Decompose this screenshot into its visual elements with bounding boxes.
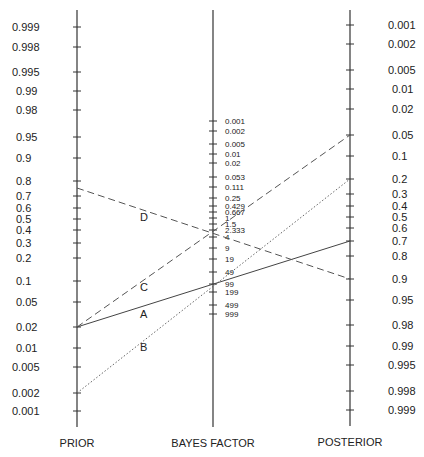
posterior-tick-label: 0.1 xyxy=(392,150,407,162)
bayes-factor-tick-label: 9 xyxy=(225,244,230,253)
posterior-tick-label: 0.7 xyxy=(392,235,407,247)
prior-tick-label: 0.02 xyxy=(16,321,37,333)
posterior-tick-label: 0.02 xyxy=(392,103,413,115)
bayes-factor-tick-label: 999 xyxy=(225,310,239,319)
posterior-tick-label: 0.001 xyxy=(388,19,416,31)
posterior-tick-label: 0.05 xyxy=(392,129,413,141)
posterior-tick-label: 0.98 xyxy=(392,319,413,331)
bayes-factor-tick-label: 0.001 xyxy=(225,117,246,126)
prior-tick-label: 0.05 xyxy=(16,296,37,308)
prior-tick-label: 0.999 xyxy=(12,21,40,33)
line-labels: D C A B xyxy=(140,211,148,353)
prior-tick-label: 0.9 xyxy=(16,152,31,164)
bayes-factor-tick-label: 499 xyxy=(225,301,239,310)
bayes-factor-tick-label: 0.002 xyxy=(225,127,246,136)
axis-title-posterior: POSTERIOR xyxy=(318,436,383,448)
posterior-tick-label: 0.999 xyxy=(388,404,416,416)
axis-title-bayes-factor: BAYES FACTOR xyxy=(171,437,254,449)
posterior-tick-label: 0.998 xyxy=(388,385,416,397)
posterior-tick-label: 0.005 xyxy=(388,64,416,76)
bayes-factor-tick-label: 0.053 xyxy=(225,173,246,182)
prior-tick-label: 0.7 xyxy=(16,190,31,202)
axis-title-prior: PRIOR xyxy=(60,437,95,449)
posterior-tick-label: 0.002 xyxy=(388,38,416,50)
bayes-factor-tick-label: 19 xyxy=(225,255,234,264)
posterior-tick-label: 0.3 xyxy=(392,188,407,200)
line-label-a: A xyxy=(140,308,148,320)
posterior-tick-label: 0.9 xyxy=(392,273,407,285)
line-label-d: D xyxy=(140,211,148,223)
prior-tick-label: 0.95 xyxy=(16,131,37,143)
prior-tick-label: 0.01 xyxy=(16,342,37,354)
posterior-tick-label: 0.6 xyxy=(392,222,407,234)
posterior-tick-label: 0.01 xyxy=(392,83,413,95)
bayes-factor-tick-label: 0.005 xyxy=(225,140,246,149)
bayes-factor-tick-label: 0.01 xyxy=(225,150,241,159)
prior-tick-label: 0.001 xyxy=(12,405,40,417)
posterior-tick-label: 0.99 xyxy=(392,340,413,352)
prior-tick-label: 0.995 xyxy=(12,66,40,78)
prior-tick-label: 0.98 xyxy=(16,104,37,116)
axes: 0.9990.9980.9950.990.980.950.90.80.70.60… xyxy=(12,10,416,427)
prior-tick-label: 0.005 xyxy=(12,361,40,373)
prior-tick-label: 0.998 xyxy=(12,41,40,53)
prior-tick-label: 0.99 xyxy=(16,85,37,97)
prior-tick-label: 0.1 xyxy=(16,275,31,287)
posterior-tick-label: 0.8 xyxy=(392,250,407,262)
prior-tick-label: 0.8 xyxy=(16,175,31,187)
posterior-tick-label: 0.95 xyxy=(392,294,413,306)
line-label-c: C xyxy=(140,281,148,293)
line-label-b: B xyxy=(140,341,147,353)
prior-tick-label: 0.3 xyxy=(16,237,31,249)
bayes-factor-tick-label: 199 xyxy=(225,288,239,297)
axis-titles: PRIOR BAYES FACTOR POSTERIOR xyxy=(60,436,383,449)
prior-tick-label: 0.4 xyxy=(16,224,31,236)
posterior-tick-label: 0.995 xyxy=(388,359,416,371)
prior-tick-label: 0.002 xyxy=(12,387,40,399)
bayes-factor-tick-label: 0.111 xyxy=(225,183,244,192)
prior-tick-label: 0.2 xyxy=(16,252,31,264)
bayes-factor-tick-label: 0.02 xyxy=(225,159,241,168)
bayes-nomogram: 0.9990.9980.9950.990.980.950.90.80.70.60… xyxy=(0,0,424,457)
posterior-tick-label: 0.2 xyxy=(392,173,407,185)
